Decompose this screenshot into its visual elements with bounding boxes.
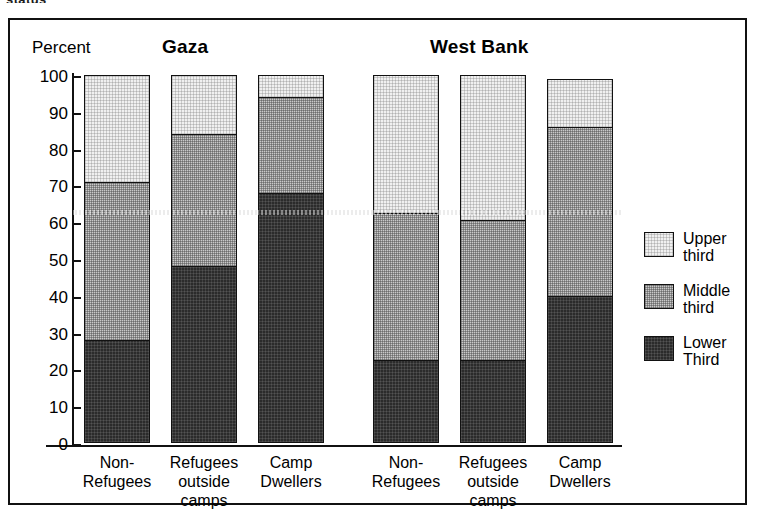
bar-segment-lower: [460, 360, 526, 443]
stacked-bar: [171, 75, 237, 443]
y-tick-mark: [74, 407, 81, 409]
legend-label: Lower Third: [683, 334, 727, 368]
bar-segment-lower: [84, 340, 150, 443]
bar-segment-middle: [373, 213, 439, 360]
legend: Upper thirdMiddle thirdLower Third: [644, 230, 744, 386]
y-tick-mark: [74, 370, 81, 372]
stacked-bar: [84, 75, 150, 443]
bar-segment-lower: [171, 266, 237, 443]
y-tick-label: 20: [24, 362, 68, 379]
plot-area: 0102030405060708090100 Non- RefugeesRefu…: [10, 20, 745, 503]
bar-segment-middle: [258, 97, 324, 193]
upper-third-swatch: [644, 232, 674, 257]
stacked-bar: [258, 75, 324, 443]
y-tick-mark: [74, 113, 81, 115]
legend-label: Middle third: [683, 282, 730, 316]
y-tick-label: 30: [24, 326, 68, 343]
bar-segment-middle: [171, 134, 237, 266]
bar-segment-middle: [84, 182, 150, 340]
legend-item-upper: Upper third: [644, 230, 744, 264]
y-tick-mark: [74, 76, 81, 78]
bar-segment-upper: [547, 79, 613, 127]
y-tick-label: 90: [24, 105, 68, 122]
y-tick-label: 60: [24, 215, 68, 232]
legend-item-lower: Lower Third: [644, 334, 744, 368]
x-axis-label: Camp Dwellers: [528, 453, 632, 491]
x-axis-label: Camp Dwellers: [239, 453, 343, 491]
lower-third-swatch: [644, 336, 674, 361]
bar-segment-middle: [460, 220, 526, 360]
y-tick-mark: [74, 186, 81, 188]
x-axis-line: [46, 445, 622, 447]
middle-third-swatch: [644, 284, 674, 309]
y-tick-label: 80: [24, 142, 68, 159]
y-tick-label: 40: [24, 289, 68, 306]
bar-segment-upper: [171, 75, 237, 134]
y-tick-mark: [74, 297, 81, 299]
legend-label: Upper third: [683, 230, 727, 264]
stacked-bar: [460, 75, 526, 443]
y-tick-label: 10: [24, 399, 68, 416]
y-tick-mark: [74, 260, 81, 262]
bar-segment-upper: [84, 75, 150, 182]
bar-segment-upper: [460, 75, 526, 220]
stacked-bar: [373, 75, 439, 443]
figure-frame: Gaza West Bank Percent 01020304050607080…: [8, 18, 747, 505]
y-tick-mark: [74, 444, 81, 446]
stacked-bar: [547, 79, 613, 443]
bar-segment-upper: [373, 75, 439, 213]
legend-item-middle: Middle third: [644, 282, 744, 316]
y-tick-mark: [74, 223, 81, 225]
y-tick-label: 0: [24, 436, 68, 453]
y-tick-mark: [74, 334, 81, 336]
bar-segment-lower: [547, 296, 613, 443]
y-tick-label: 100: [24, 68, 68, 85]
y-tick-label: 50: [24, 252, 68, 269]
bar-segment-upper: [258, 75, 324, 97]
bar-segment-lower: [373, 360, 439, 443]
y-tick-mark: [74, 150, 81, 152]
y-tick-label: 70: [24, 178, 68, 195]
bar-segment-middle: [547, 127, 613, 296]
bar-segment-lower: [258, 193, 324, 443]
scan-artifact: [73, 210, 622, 215]
caption-fragment: status: [6, 0, 47, 3]
